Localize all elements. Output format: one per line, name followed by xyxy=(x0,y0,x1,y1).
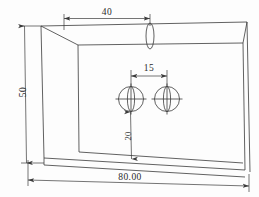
dim-bottom-80-label: 80.00 xyxy=(118,172,141,182)
edge-right-inner xyxy=(243,43,245,170)
hole-right xyxy=(152,84,183,115)
drawing-svg: 40 50 15 20 80.00 xyxy=(0,0,259,197)
dim-holes-15-label: 15 xyxy=(144,63,154,73)
edge-top-back xyxy=(41,22,247,26)
edge-left-outer xyxy=(41,26,44,158)
top-slot-ellipse xyxy=(146,23,154,49)
edge-right-outer xyxy=(247,22,250,172)
edge-right-chamfer xyxy=(243,22,247,43)
edge-left-inner xyxy=(78,45,79,152)
hole-left xyxy=(116,84,147,115)
dim-left-50-label: 50 xyxy=(18,87,28,97)
edge-bottom-front xyxy=(44,165,245,177)
dim-top-40-label: 40 xyxy=(102,7,112,17)
edge-top-front xyxy=(78,43,243,45)
edge-bottom-back xyxy=(44,158,245,170)
dim-hole-bottom-20-label: 20 xyxy=(123,131,133,140)
edge-sidewall-slope xyxy=(41,26,78,45)
part-body-outline xyxy=(41,22,250,177)
engineering-drawing-canvas: 40 50 15 20 80.00 xyxy=(0,0,259,197)
